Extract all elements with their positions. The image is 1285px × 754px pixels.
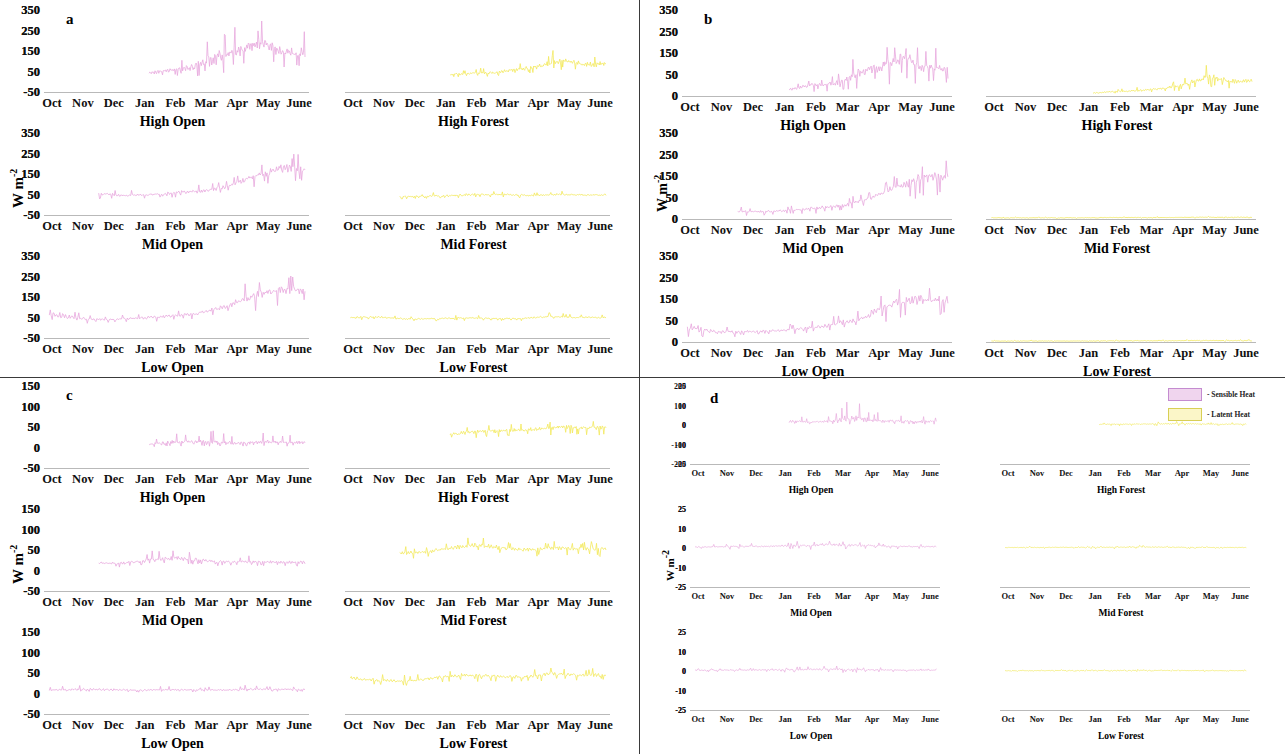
x-tick-label: June [1231,591,1248,601]
x-tick-label: Dec [104,219,124,234]
series-line-sensible [44,632,309,714]
x-tick-label: Jan [1079,223,1098,238]
legend-item: - Latent Heat [1168,408,1255,421]
x-tick-label: Dec [749,591,763,601]
series-line-latent [986,256,1256,342]
axis-baseline [345,714,610,715]
x-tick-label: Jan [436,718,455,733]
subplot-title: Mid Forest [440,237,506,253]
x-tick-label: Dec [743,100,763,115]
x-tick-label: Nov [720,714,735,724]
x-tick-label: Jan [1088,591,1101,601]
x-tick-label: Apr [527,472,549,487]
axis-baseline [690,464,940,465]
x-tick-label: Jan [778,591,791,601]
x-tick-label: Oct [691,591,704,601]
x-tick-label: Jan [775,346,794,361]
x-tick-label: Oct [1001,468,1014,478]
x-tick-label: Oct [42,595,61,610]
axis-baseline [682,219,952,220]
x-tick-label: Feb [807,591,821,601]
x-tick-label: Nov [373,342,395,357]
axis-baseline [986,342,1256,343]
axis-baseline [690,587,940,588]
x-tick-label: June [286,472,312,487]
axis-baseline [345,215,610,216]
axis-baseline [682,342,952,343]
x-tick-label: Mar [195,96,219,111]
x-tick-label: Jan [1088,468,1101,478]
x-tick-label: Oct [984,100,1003,115]
axis-baseline [345,468,610,469]
x-tick-label: June [1231,468,1248,478]
x-tick-label: June [286,96,312,111]
x-tick-label: June [1233,223,1259,238]
x-tick-label: Apr [226,96,248,111]
x-tick-label: Jan [436,96,455,111]
y-tick-label: 0 [0,440,40,455]
subplot-title: High Open [140,490,206,506]
x-tick-label: Feb [1117,591,1131,601]
series-line-latent [345,133,610,215]
y-tick-label: 150 [632,46,678,61]
y-tick-label: 0 [0,686,40,701]
x-tick-label: Dec [743,223,763,238]
legend-swatch-sensible [1168,388,1202,401]
plot-area [682,256,952,342]
x-tick-label: June [1233,346,1259,361]
x-tick-label: May [256,472,280,487]
y-tick-label: 350 [632,126,678,141]
axis-baseline [1000,464,1250,465]
y-tick-label: 350 [0,126,40,141]
y-tick-label: 50 [632,67,678,82]
x-tick-label: Apr [868,346,890,361]
y-tick-label: 50 [0,420,40,435]
x-tick-label: Nov [373,472,395,487]
x-tick-label: Jan [775,223,794,238]
subplot-title: Low Forest [440,360,508,376]
x-tick-label: May [557,342,581,357]
plot-area [690,386,940,464]
x-tick-label: Feb [165,342,185,357]
y-tick-label: 0 [0,563,40,578]
subplot-title: Low Open [790,731,833,741]
plot-area [690,509,940,587]
legend-label: - Latent Heat [1207,410,1250,419]
x-tick-label: May [557,472,581,487]
x-tick-label: Oct [343,595,362,610]
y-tick-label: 10 [640,401,686,410]
series-line-sensible [44,10,309,92]
x-tick-label: May [898,346,922,361]
x-tick-label: June [587,595,613,610]
subplot-title: Mid Forest [1084,241,1150,257]
y-tick-label: 0 [632,89,678,104]
plot-area [345,256,610,338]
x-tick-label: Apr [1172,346,1194,361]
x-tick-label: Mar [1140,100,1164,115]
x-tick-label: Apr [527,219,549,234]
x-tick-label: June [1233,100,1259,115]
x-tick-label: Nov [72,96,94,111]
y-tick-label: 250 [632,24,678,39]
x-tick-label: May [256,595,280,610]
subplot-title: Low Forest [440,736,508,752]
x-tick-label: Jan [436,472,455,487]
x-tick-label: Apr [1175,714,1190,724]
x-tick-label: June [286,219,312,234]
y-tick-label: 10 [640,647,686,656]
plot-area [682,133,952,219]
x-tick-label: Mar [496,595,520,610]
x-tick-label: Nov [72,718,94,733]
x-tick-label: Mar [836,100,860,115]
x-tick-label: June [929,100,955,115]
x-tick-label: Apr [527,96,549,111]
subplot-title: Low Open [141,360,204,376]
axis-baseline [986,219,1256,220]
x-tick-label: Feb [1110,346,1130,361]
x-tick-label: May [256,342,280,357]
x-tick-label: May [1203,468,1220,478]
y-tick-label: 0 [640,544,686,553]
axis-baseline [1000,587,1250,588]
legend: - Sensible Heat- Latent Heat [1168,388,1255,428]
x-tick-label: Jan [775,100,794,115]
